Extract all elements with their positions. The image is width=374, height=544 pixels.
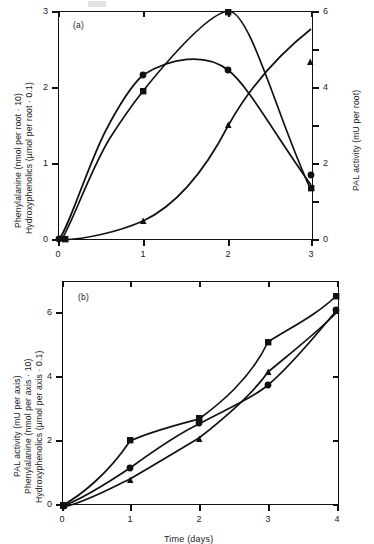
panel-a-marker-triangle-1	[140, 218, 147, 225]
panel-b-marker-square-1	[127, 437, 133, 443]
panel-b-marker-circle-1	[127, 465, 134, 472]
panel-a-marker-square-1	[140, 88, 146, 94]
panel-a-series-triangle-line	[62, 29, 311, 240]
panel-a-series-circle-line	[58, 59, 311, 240]
panel-b-series-square-line	[63, 296, 336, 505]
panel-a-marker-circle-1	[140, 72, 147, 79]
panel-b-series-triangle-line	[63, 313, 336, 507]
panel-a: (a) 0 1 2 3 0 2 4 6 0 1 2 3	[0, 0, 374, 272]
panel-b-curves	[0, 272, 374, 543]
panel-b-marker-circle-2	[196, 420, 203, 427]
panel-a-marker-circle-0	[56, 236, 63, 243]
panel-a-series-square-line	[61, 11, 311, 240]
panel-b-marker-square-4	[333, 293, 339, 299]
panel-a-marker-square-3	[308, 185, 314, 191]
panel-a-marker-circle-2	[225, 67, 232, 74]
panel-b-series-circle-line	[63, 311, 336, 506]
panel-b-marker-circle-3	[265, 382, 272, 389]
panel-a-marker-square-2	[225, 9, 231, 15]
panel-a-curves	[0, 0, 374, 272]
panel-a-marker-triangle-3	[307, 59, 314, 66]
panel-b-marker-square-3	[265, 339, 271, 345]
panel-a-marker-circle-3	[308, 172, 315, 179]
panel-b: (b) 0 2 4 6 0 1 2 3 4 PAL activity (mU p…	[0, 272, 374, 543]
